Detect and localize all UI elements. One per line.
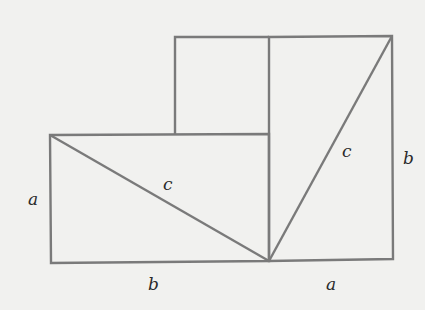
pythagorean-diagram: a c b c b a	[0, 0, 425, 310]
label-right-b: b	[403, 148, 414, 168]
label-bottom-a: a	[326, 274, 336, 294]
label-right-c: c	[342, 141, 352, 161]
label-left-c: c	[163, 174, 173, 194]
label-left-a: a	[28, 189, 38, 209]
label-bottom-b: b	[148, 274, 159, 294]
diagram-canvas: a c b c b a	[0, 0, 425, 310]
top-square	[175, 37, 269, 134]
right-hypotenuse	[269, 36, 392, 261]
left-hypotenuse	[50, 135, 269, 261]
